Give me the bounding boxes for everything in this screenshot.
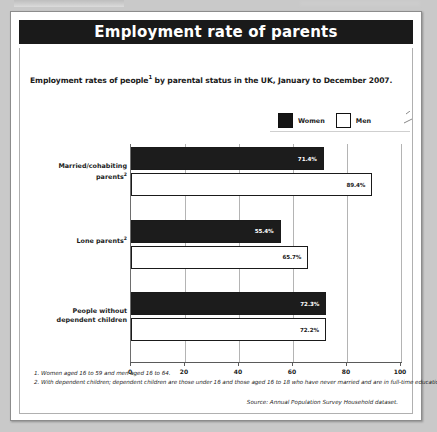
axis-tick bbox=[292, 362, 293, 366]
bar-value-label: 72.3% bbox=[300, 301, 325, 307]
category-axis-labels: Married/cohabitingparents2Lone parents2P… bbox=[20, 144, 130, 362]
category-label-0: Married/cohabitingparents2 bbox=[58, 162, 127, 181]
bar-value-label: 72.2% bbox=[300, 327, 325, 333]
gridline bbox=[401, 144, 402, 362]
chart-body: Employment rates of people1 by parental … bbox=[19, 48, 413, 414]
legend-label-men: Men bbox=[356, 117, 371, 125]
axis-line bbox=[130, 362, 402, 363]
legend-swatch-women bbox=[278, 113, 293, 128]
bar-group: 71.4%89.4% bbox=[131, 144, 401, 217]
bar-women-2[interactable]: 72.3% bbox=[131, 292, 326, 315]
chart-subtitle-prefix: Employment rates of people bbox=[30, 76, 148, 85]
bar-men-0[interactable]: 89.4% bbox=[131, 173, 372, 196]
bar-group: 72.3%72.2% bbox=[131, 289, 401, 362]
footnote-2: 2. With dependent children; dependent ch… bbox=[34, 378, 398, 387]
panel-title-bar: Employment rate of parents bbox=[19, 20, 413, 44]
chart-legend: Women Men bbox=[270, 110, 410, 132]
category-label-1: Lone parents2 bbox=[76, 235, 127, 246]
scan-scribble-icon bbox=[388, 111, 414, 127]
axis-tick bbox=[400, 362, 401, 366]
bar-women-1[interactable]: 55.4% bbox=[131, 220, 281, 243]
axis-tick bbox=[184, 362, 185, 366]
axis-tick bbox=[130, 362, 131, 366]
bars-region: 71.4%89.4%55.4%65.7%72.3%72.2% bbox=[130, 144, 402, 362]
source-note: Source: Annual Population Survey Househo… bbox=[247, 399, 398, 405]
footnote-1: 1. Women aged 16 to 59 and men aged 16 t… bbox=[34, 369, 398, 378]
category-label-2: People withoutdependent children bbox=[57, 307, 127, 324]
bar-value-label: 65.7% bbox=[282, 254, 307, 260]
bar-group: 55.4%65.7% bbox=[131, 217, 401, 290]
axis-tick bbox=[238, 362, 239, 366]
chart-panel: Employment rate of parents Employment ra… bbox=[10, 11, 422, 421]
axis-tick bbox=[346, 362, 347, 366]
page-title: Employment rate of parents bbox=[94, 23, 337, 41]
legend-swatch-men bbox=[336, 113, 351, 128]
chart-subtitle: Employment rates of people1 by parental … bbox=[30, 74, 392, 85]
footnotes: 1. Women aged 16 to 59 and men aged 16 t… bbox=[34, 369, 398, 387]
bar-value-label: 55.4% bbox=[255, 228, 280, 234]
bar-value-label: 71.4% bbox=[298, 156, 323, 162]
bar-men-1[interactable]: 65.7% bbox=[131, 246, 308, 269]
bar-women-0[interactable]: 71.4% bbox=[131, 147, 324, 170]
scan-artifact-top-left bbox=[14, 0, 124, 7]
legend-label-women: Women bbox=[298, 117, 325, 125]
chart-subtitle-suffix: by parental status in the UK, January to… bbox=[152, 76, 392, 85]
scan-artifact-top-right bbox=[300, 1, 420, 6]
bar-men-2[interactable]: 72.2% bbox=[131, 318, 326, 341]
bar-value-label: 89.4% bbox=[346, 182, 371, 188]
